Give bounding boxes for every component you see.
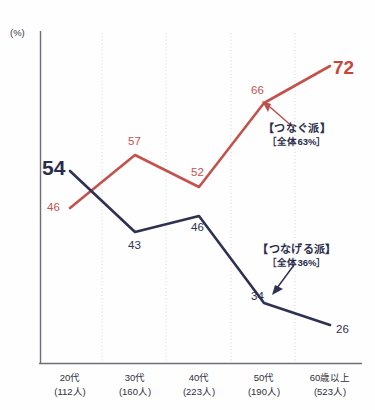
- annotation-tsunagu: 【つなぐ派】 ［全体63%］: [248, 122, 346, 148]
- annotation-tsunagu-overall: ［全体63%］: [248, 136, 346, 148]
- data-label-tsunageru-2: 46: [191, 222, 204, 234]
- x-tick-4-age: 60歳以上: [295, 371, 365, 385]
- x-tick-2: 40代 (223人): [164, 371, 234, 399]
- x-tick-3: 50代 (190人): [229, 371, 299, 399]
- data-label-tsunageru-4: 26: [336, 324, 349, 336]
- x-tick-0-age: 20代: [35, 371, 105, 385]
- annotation-tsunageru-title: 【つなげる派】: [242, 243, 352, 257]
- data-label-tsunageru-3: 34: [251, 291, 264, 303]
- annotation-tsunageru-overall: ［全体36%］: [242, 257, 352, 269]
- data-label-tsunagu-0: 46: [47, 202, 60, 214]
- data-label-tsunagu-2: 52: [191, 167, 204, 179]
- x-tick-1: 30代 (160人): [100, 371, 170, 399]
- x-tick-3-age: 50代: [229, 371, 299, 385]
- x-tick-2-age: 40代: [164, 371, 234, 385]
- x-tick-3-count: (190人): [229, 385, 299, 399]
- line-chart: (%) 46 57 52 66 72 54 43 46: [0, 0, 375, 410]
- data-label-tsunageru-1: 43: [128, 240, 141, 252]
- x-tick-4-count: (523人): [295, 385, 365, 399]
- annotation-tsunagu-title: 【つなぐ派】: [248, 122, 346, 136]
- x-tick-0: 20代 (112人): [35, 371, 105, 399]
- data-label-tsunagu-4: 72: [333, 58, 354, 77]
- leader-arrow-tsunageru: [272, 265, 294, 295]
- annotation-tsunageru: 【つなげる派】 ［全体36%］: [242, 243, 352, 269]
- x-tick-2-count: (223人): [164, 385, 234, 399]
- x-tick-1-age: 30代: [100, 371, 170, 385]
- data-label-tsunagu-3: 66: [251, 85, 264, 97]
- gridlines: [102, 33, 295, 362]
- x-tick-0-count: (112人): [35, 385, 105, 399]
- x-tick-1-count: (160人): [100, 385, 170, 399]
- data-label-tsunagu-1: 57: [128, 136, 141, 148]
- data-label-tsunageru-0: 54: [42, 157, 65, 178]
- x-tick-4: 60歳以上 (523人): [295, 371, 365, 399]
